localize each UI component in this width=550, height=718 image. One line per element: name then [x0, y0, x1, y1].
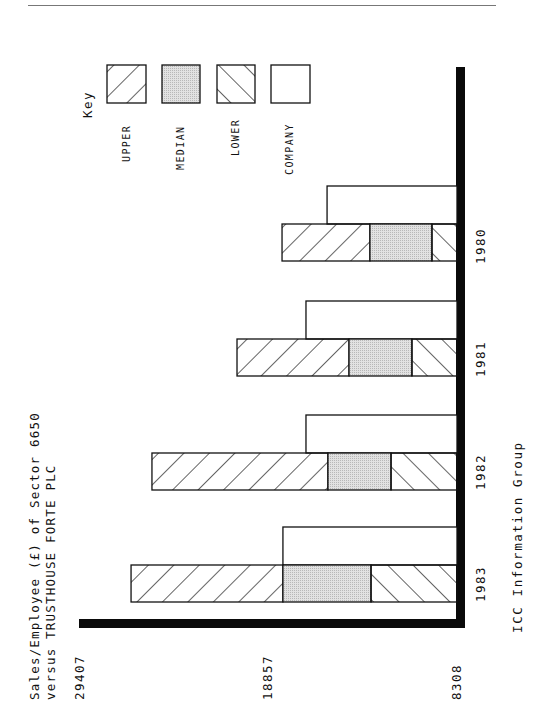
bar-company-1983 — [283, 527, 457, 565]
category-label-1980: 1980 — [473, 228, 488, 264]
bar-company-1980 — [327, 186, 457, 224]
bar-upper-1981 — [237, 339, 349, 376]
bar-company-1982 — [306, 415, 457, 453]
legend — [107, 65, 310, 103]
tick-label-min: 8308 — [449, 664, 464, 700]
bar-groups — [131, 186, 457, 602]
legend-swatch-upper — [107, 65, 146, 103]
bar-upper-1982 — [152, 453, 328, 490]
legend-label-median: MEDIAN — [175, 125, 186, 170]
value-axis — [79, 619, 465, 628]
tick-label-max: 29407 — [72, 655, 87, 700]
bar-median-1983 — [283, 565, 371, 602]
legend-label-company: COMPANY — [284, 123, 295, 175]
legend-label-lower: LOWER — [230, 119, 241, 156]
bar-median-1981 — [349, 339, 412, 376]
category-label-1982: 1982 — [473, 454, 488, 490]
bar-upper-1980 — [282, 224, 370, 261]
bar-company-1981 — [306, 301, 457, 339]
bar-lower-1983 — [371, 565, 457, 602]
bar-lower-1980 — [432, 224, 457, 261]
legend-swatch-company — [271, 65, 310, 103]
bar-median-1982 — [328, 453, 391, 490]
category-label-1983: 1983 — [473, 566, 488, 602]
bar-median-1980 — [370, 224, 432, 261]
chart-subtitle: versus TRUSTHOUSE FORTE PLC — [43, 464, 58, 700]
chart-title: Sales/Employee (£) of Sector 6650 — [27, 412, 42, 700]
legend-swatch-lower — [217, 65, 255, 103]
source-footer: ICC Information Group — [510, 441, 525, 633]
legend-label-upper: UPPER — [121, 125, 132, 162]
bar-lower-1981 — [412, 339, 457, 376]
bar-lower-1982 — [391, 453, 457, 490]
tick-label-mid: 18857 — [260, 655, 275, 700]
legend-title: Key — [80, 91, 95, 118]
bar-upper-1983 — [131, 565, 283, 602]
category-label-1981: 1981 — [473, 341, 488, 377]
legend-swatch-median — [162, 65, 200, 103]
